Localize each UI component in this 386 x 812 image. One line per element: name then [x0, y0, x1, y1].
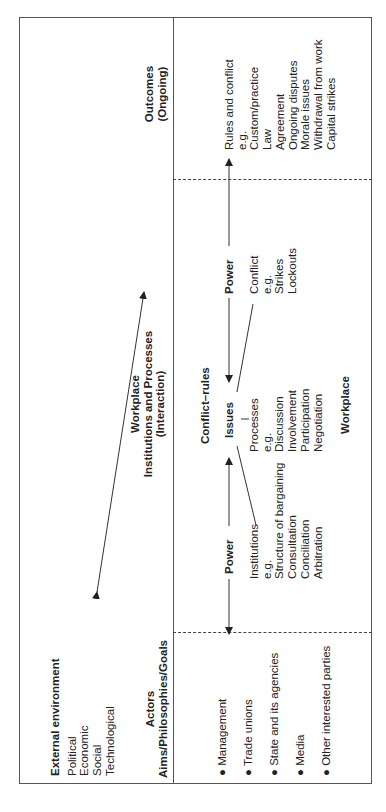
- outcomes-item: Morale issues: [299, 39, 312, 150]
- industrial-relations-diagram: External environment Political Economic …: [19, 17, 372, 784]
- conflict-item: Lockouts: [286, 248, 299, 294]
- external-item: Political: [66, 658, 79, 776]
- conflict-rules-label: Conflict–rules: [199, 367, 212, 444]
- processes-item: Involvement: [286, 389, 299, 452]
- institutions-item: Arbitration: [312, 463, 325, 579]
- actors-subtitle: Aims/Philosophies/Goals: [157, 634, 170, 784]
- actor-item: ● State and its agencies: [261, 646, 287, 776]
- external-title: External environment: [49, 658, 62, 776]
- workplace-header-line: Workplace: [129, 304, 142, 504]
- outcomes-item: Law: [261, 39, 274, 150]
- actor-item: ● Trade unions: [235, 646, 261, 776]
- outcomes-title: Rules and conflict: [223, 39, 236, 150]
- institutions-item: Consultation: [286, 463, 299, 579]
- institutions-block: Institutions e.g. Structure of bargainin…: [248, 463, 324, 579]
- external-item: Social: [91, 658, 104, 776]
- outcomes-item: Capital strikes: [325, 39, 338, 150]
- institutions-item: Structure of bargaining: [273, 463, 286, 579]
- external-item: Economic: [78, 658, 91, 776]
- processes-item: Negotiation: [312, 389, 325, 452]
- power-label-right: Power: [223, 259, 236, 294]
- outcomes-header-line: Outcomes: [143, 44, 156, 144]
- actor-item: ● Media: [287, 646, 313, 776]
- actor-item: ● Management: [209, 646, 235, 776]
- outcomes-item: Custom/practice: [248, 39, 261, 150]
- outcomes-item: Agreement: [274, 39, 287, 150]
- institutions-item: e.g.: [261, 463, 274, 579]
- processes-item: Discussion: [273, 389, 286, 452]
- outcomes-block: Rules and conflict e.g. Custom/practice …: [223, 39, 337, 150]
- institutions-title: Institutions: [248, 463, 261, 579]
- conflict-item: Strikes: [273, 248, 286, 294]
- outcomes-item: Withdrawal from work: [312, 39, 325, 150]
- conflict-title: Conflict: [248, 248, 261, 294]
- outcomes-item: e.g.: [236, 39, 249, 150]
- power-label-left: Power: [223, 539, 236, 574]
- processes-item: e.g.: [261, 389, 274, 452]
- actors-list: ● Management ● Trade unions ● State and …: [209, 646, 339, 776]
- workplace-header: Workplace Institutions and Processes (In…: [129, 304, 167, 504]
- processes-title: Processes: [248, 389, 261, 452]
- processes-block: Processes e.g. Discussion Involvement Pa…: [248, 389, 324, 452]
- workplace-label: Workplace: [339, 376, 352, 434]
- institutions-item: Conciliation: [299, 463, 312, 579]
- actors-title: Actors: [144, 634, 157, 784]
- outcomes-header-line: (Ongoing): [156, 44, 169, 144]
- outcomes-item: Ongoing disputes: [287, 39, 300, 150]
- conflict-item: e.g.: [261, 248, 274, 294]
- issues-label: Issues: [223, 402, 236, 438]
- processes-item: Participation: [299, 389, 312, 452]
- actors-header: Actors Aims/Philosophies/Goals: [144, 634, 169, 784]
- workplace-header-line: (Interaction): [154, 304, 167, 504]
- external-item: Technological: [104, 658, 117, 776]
- outcomes-header: Outcomes (Ongoing): [143, 44, 168, 144]
- conflict-block: Conflict e.g. Strikes Lockouts: [248, 248, 299, 294]
- actor-item: ● Other interested parties: [313, 646, 339, 776]
- external-environment: External environment Political Economic …: [49, 658, 117, 776]
- workplace-header-line: Institutions and Processes: [142, 304, 155, 504]
